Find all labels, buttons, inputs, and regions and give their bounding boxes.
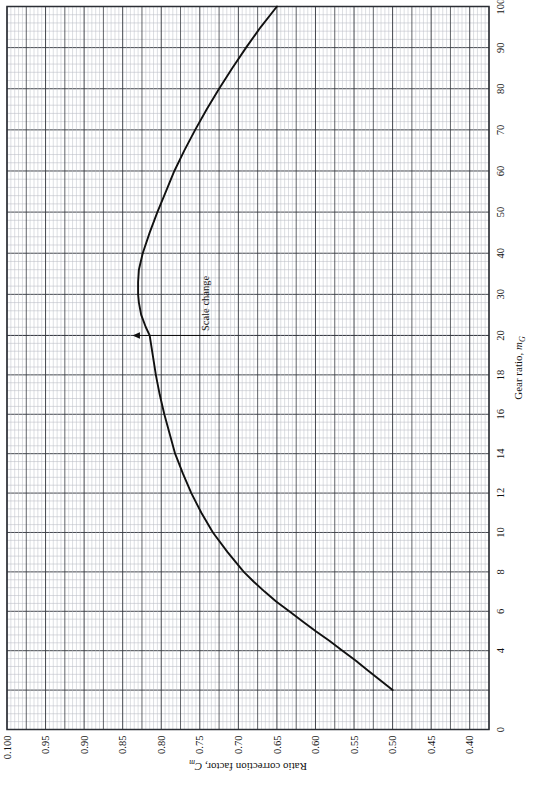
y-tick-label: 0.50	[387, 735, 398, 753]
x-tick-label: 20	[495, 330, 506, 341]
y-tick-label: 0.80	[156, 735, 167, 753]
x-tick-label: 10	[495, 527, 506, 538]
y-tick-label: 0.70	[233, 735, 244, 753]
rotated-chart-stage: Scale change 046810121416182030405060708…	[0, 0, 538, 789]
chart-canvas: Scale change 046810121416182030405060708…	[0, 0, 538, 789]
x-tick-label: 90	[495, 42, 506, 53]
y-tick-label: 0.90	[79, 735, 90, 753]
y-tick-label: 0.75	[194, 735, 205, 753]
x-axis-tick-labels: 046810121416182030405060708090100	[495, 0, 506, 732]
minor-gridlines	[7, 6, 489, 729]
y-tick-label: 0.40	[464, 735, 475, 753]
scale-change-label: Scale change	[200, 275, 211, 330]
chart-page: Scale change 046810121416182030405060708…	[0, 0, 538, 789]
y-tick-label: 0.95	[40, 735, 51, 753]
x-axis-title: Gear ratio, mG	[512, 336, 527, 400]
scale-change-annotation: Scale change	[132, 275, 211, 338]
x-tick-label: 60	[495, 165, 506, 176]
x-tick-label: 12	[495, 487, 506, 498]
gear-ratio-correction-chart: Scale change 046810121416182030405060708…	[0, 0, 538, 789]
x-tick-label: 14	[495, 447, 506, 458]
y-tick-label: 0.85	[117, 735, 128, 753]
x-tick-label: 18	[495, 369, 506, 380]
x-tick-label: 16	[495, 409, 506, 420]
y-tick-label: 0.55	[349, 735, 360, 753]
x-tick-label: 0	[495, 726, 506, 731]
x-tick-label: 4	[495, 647, 506, 653]
x-tick-label: 6	[495, 608, 506, 613]
y-tick-label: 0.60	[310, 735, 321, 753]
y-tick-label: 0.45	[426, 735, 437, 753]
x-tick-label: 40	[495, 247, 506, 258]
y-axis-tick-labels: 0.1000.950.900.850.800.750.700.650.600.5…	[2, 735, 476, 759]
x-tick-label: 80	[495, 83, 506, 94]
x-tick-label: 100	[495, 0, 506, 14]
x-tick-label: 70	[495, 124, 506, 135]
x-tick-label: 30	[495, 289, 506, 300]
y-tick-label: 0.100	[2, 735, 13, 759]
plot-frame	[7, 6, 489, 729]
y-axis-title: Ratio correction factor, Cm	[189, 757, 307, 772]
y-tick-label: 0.65	[272, 735, 283, 753]
x-tick-label: 50	[495, 206, 506, 217]
x-tick-label: 8	[495, 569, 506, 574]
